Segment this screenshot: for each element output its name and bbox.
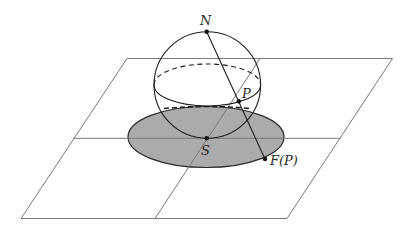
point-p (237, 99, 241, 103)
point-n (205, 30, 209, 34)
label-n: N (199, 13, 212, 28)
label-fp: F(P) (269, 153, 298, 168)
diagram-canvas: N P S F(P) (0, 0, 411, 229)
label-p: P (241, 86, 251, 101)
point-fp (263, 157, 267, 161)
point-s (205, 136, 209, 140)
stereographic-projection-diagram: N P S F(P) (0, 0, 411, 229)
label-s: S (201, 143, 210, 158)
